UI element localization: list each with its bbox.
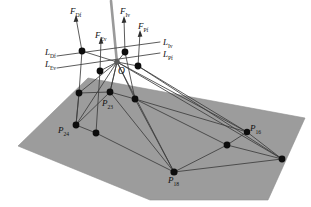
force-shaft-Pf <box>138 33 140 66</box>
force-shaft-Df <box>76 18 82 51</box>
label-line-L-Ev: LEv <box>45 60 56 71</box>
label-point-P-16: P16 <box>250 124 261 135</box>
label-force-F-Pf: FPf <box>138 22 148 33</box>
node-left-mid <box>76 90 83 97</box>
force-shaft-Ev <box>100 40 101 71</box>
label-sub: Df <box>50 53 56 59</box>
label-line-L-Pf: LPf <box>163 50 173 61</box>
force-arrowheads <box>74 15 143 44</box>
node-F-Df-top <box>79 48 86 55</box>
label-sub: 24 <box>64 131 69 137</box>
node-far-right <box>279 156 286 163</box>
label-sub: Ev <box>101 36 107 42</box>
label-force-F-Df: FDf <box>70 7 81 18</box>
ground-plane <box>18 78 305 200</box>
label-sub: Iv <box>126 12 130 18</box>
label-sub: 16 <box>256 129 261 135</box>
node-F-Pf-top <box>135 63 142 70</box>
label-origin-O: O <box>118 67 125 77</box>
diagram-svg <box>0 0 311 207</box>
node-apex-O <box>114 59 120 65</box>
node-P23 <box>107 89 114 96</box>
label-sub: Iv <box>168 43 172 49</box>
node-right-mid <box>132 96 139 103</box>
label-point-P-18: P18 <box>168 176 179 187</box>
node-mid-right <box>224 142 231 149</box>
label-sub: Pf <box>168 55 173 61</box>
node-P24 <box>73 122 80 129</box>
figure-canvas: FDf FEv FIv FPf LIv LPf LDf LEv O P24 P2… <box>0 0 311 207</box>
label-sub: Df <box>76 12 82 18</box>
node-lower-left <box>93 130 100 137</box>
label-line-L-Df: LDf <box>45 48 56 59</box>
node-F-Ev-top <box>97 68 104 75</box>
label-point-P-23: P23 <box>102 99 113 110</box>
label-sub: Ev <box>50 65 56 71</box>
label-sub: Pf <box>144 27 149 33</box>
pole <box>111 1 117 63</box>
label-sub: 18 <box>174 181 179 187</box>
node-F-Iv-top <box>122 49 129 56</box>
label-sub: 23 <box>108 104 113 110</box>
label-force-F-Iv: FIv <box>120 7 130 18</box>
label-base: O <box>118 66 125 76</box>
label-force-F-Ev: FEv <box>95 31 107 42</box>
label-point-P-24: P24 <box>58 126 69 137</box>
label-line-L-Iv: LIv <box>163 38 172 49</box>
